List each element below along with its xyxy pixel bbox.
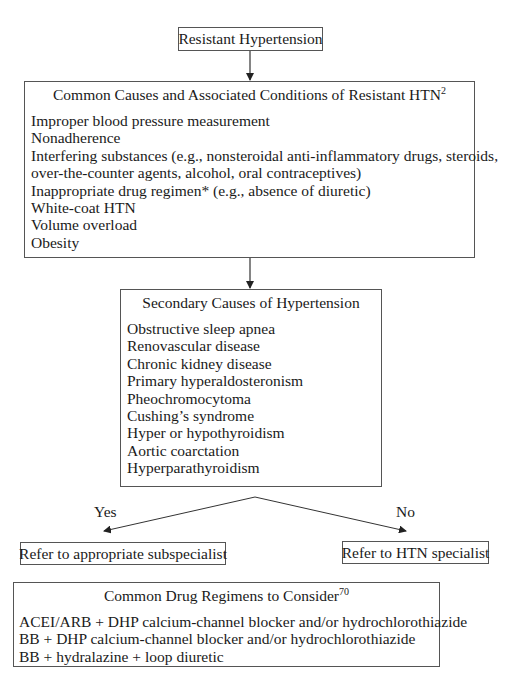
- drug-regimens-title: Common Drug Regimens to Consider70: [19, 587, 434, 605]
- start-node: Resistant Hypertension: [178, 27, 323, 51]
- list-item: Pheochromocytoma: [127, 390, 381, 407]
- no-outcome-label: Refer to HTN specialist: [342, 544, 490, 562]
- list-item: Interfering substances (e.g., nonsteroid…: [31, 147, 474, 164]
- list-item: over-the-counter agents, alcohol, oral c…: [31, 164, 474, 181]
- common-causes-box: Common Causes and Associated Conditions …: [24, 81, 475, 258]
- list-item: Aortic coarctation: [127, 442, 381, 459]
- no-branch-label: No: [396, 503, 415, 521]
- arrow-no-branch: [255, 497, 406, 531]
- drug-regimens-box: Common Drug Regimens to Consider70 ACEI/…: [13, 582, 440, 667]
- list-item: Renovascular disease: [127, 337, 381, 354]
- list-item: Cushing’s syndrome: [127, 407, 381, 424]
- list-item: Inappropriate drug regimen* (e.g., absen…: [31, 182, 474, 199]
- secondary-causes-title: Secondary Causes of Hypertension: [127, 294, 375, 312]
- yes-outcome-node: Refer to appropriate subspecialist: [20, 542, 226, 565]
- reference-superscript: 2: [441, 85, 446, 96]
- list-item: ACEI/ARB + DHP calcium-channel blocker a…: [19, 613, 439, 630]
- arrow-yes-branch: [104, 497, 255, 531]
- list-item: Primary hyperaldosteronism: [127, 372, 381, 389]
- common-causes-title: Common Causes and Associated Conditions …: [31, 86, 468, 104]
- list-item: Hyperparathyroidism: [127, 459, 381, 476]
- reference-superscript: 70: [339, 586, 349, 597]
- list-item: Nonadherence: [31, 129, 474, 146]
- list-item: BB + DHP calcium-channel blocker and/or …: [19, 630, 439, 647]
- list-item: Hyper or hypothyroidism: [127, 424, 381, 441]
- list-item: Chronic kidney disease: [127, 355, 381, 372]
- common-causes-list: Improper blood pressure measurement Nona…: [31, 112, 474, 251]
- list-item: BB + hydralazine + loop diuretic: [19, 648, 439, 665]
- yes-outcome-label: Refer to appropriate subspecialist: [19, 545, 227, 563]
- list-item: Improper blood pressure measurement: [31, 112, 474, 129]
- start-node-label: Resistant Hypertension: [178, 30, 322, 48]
- list-item: Obstructive sleep apnea: [127, 320, 381, 337]
- secondary-causes-list: Obstructive sleep apnea Renovascular dis…: [127, 320, 381, 477]
- list-item: White-coat HTN: [31, 199, 474, 216]
- secondary-causes-box: Secondary Causes of Hypertension Obstruc…: [120, 289, 382, 487]
- list-item: Volume overload: [31, 216, 474, 233]
- yes-branch-label: Yes: [94, 503, 117, 521]
- list-item: Obesity: [31, 234, 474, 251]
- no-outcome-node: Refer to HTN specialist: [342, 541, 489, 564]
- drug-regimens-list: ACEI/ARB + DHP calcium-channel blocker a…: [19, 613, 439, 665]
